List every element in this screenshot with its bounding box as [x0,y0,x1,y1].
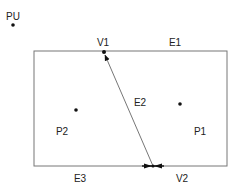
pu-dot [11,23,15,27]
outer-point-pu: PU [6,11,20,27]
p2-label: P2 [56,126,69,137]
face-p2: P2 [56,108,78,137]
p1-dot [178,102,182,106]
edge-e2-label: E2 [134,97,147,108]
v2-label: V2 [176,173,189,184]
vertex-v2: V2 [142,164,189,185]
edge-e2-line [105,55,153,166]
outer-rectangle [34,51,227,166]
v1-dot [102,50,106,54]
v2-dot [151,164,154,167]
edge-e3-label: E3 [74,173,87,184]
face-p1: P1 [178,102,206,137]
v1-label: V1 [97,37,110,48]
p1-label: P1 [194,126,207,137]
p2-dot [74,108,78,112]
edge-e1-label: E1 [169,37,182,48]
planar-subdivision-diagram: PU V1 V2 E1 E2 E3 P1 P2 [0,0,237,192]
pu-label: PU [6,11,20,22]
